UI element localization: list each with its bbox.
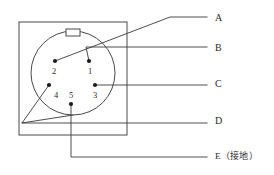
connector-keyway-notch (66, 29, 80, 36)
pin-2-number: 2 (52, 66, 56, 76)
callout-label-a: A (215, 12, 223, 23)
connector-pinout-diagram: 1 2 3 4 5 A B C D E（接地） (0, 0, 274, 175)
callout-label-d: D (215, 115, 223, 126)
leader-line-d-branch (22, 115, 73, 123)
pin-2-dot (53, 59, 57, 63)
leader-line-a (55, 17, 207, 61)
pin-5-number: 5 (69, 90, 73, 100)
pin-5-dot (69, 102, 73, 106)
connector-body-circle (31, 31, 115, 115)
pin-1-number: 1 (88, 66, 92, 76)
pin-3-dot (93, 83, 97, 87)
pin-4-number: 4 (54, 90, 59, 100)
leader-line-b (86, 47, 207, 61)
pin-3-number: 3 (93, 90, 97, 100)
leader-line-d (22, 85, 207, 123)
pin-number-labels: 1 2 3 4 5 (52, 66, 97, 100)
callout-label-c: C (215, 78, 222, 89)
leader-line-e (71, 104, 207, 157)
callout-label-b: B (215, 42, 222, 53)
pin-4-dot (47, 83, 51, 87)
connector-mounting-plate (19, 22, 127, 135)
callout-label-e-ground: E（接地） (215, 150, 258, 161)
callout-labels: A B C D E（接地） (215, 12, 258, 161)
diagram-canvas: 1 2 3 4 5 A B C D E（接地） (0, 0, 274, 175)
pin-1-dot (87, 59, 91, 63)
